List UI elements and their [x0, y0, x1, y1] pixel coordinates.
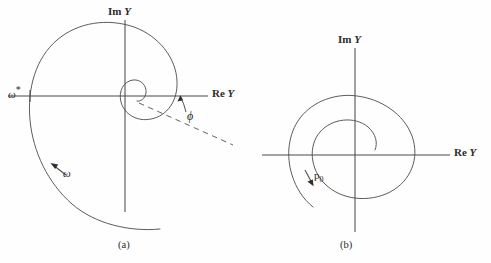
panel-a-spiral-curve [29, 22, 177, 229]
omega-direction-label: ω [63, 168, 71, 179]
panel-b-caption: (b) [340, 240, 352, 251]
panel-a-caption: (a) [118, 240, 130, 251]
panel-a-imag-axis-label-prefix: Im [108, 5, 124, 17]
panel-a-imag-axis-label: Im Y [108, 6, 131, 17]
panel-b-real-axis-label-var: Y [470, 146, 477, 158]
omega-star-symbol: ω [8, 88, 16, 100]
panel-a-real-axis-label-prefix: Re [212, 87, 228, 99]
panel-b-real-axis-label-prefix: Re [454, 146, 470, 158]
panel-b-p0-arrow-head [307, 180, 313, 187]
figure-container: Re Y Im Y ω* ω ϕ (a) Re Y Im Y p0 (b) [0, 0, 491, 263]
omega-star-superscript: * [16, 84, 21, 95]
panel-a-real-axis-label-var: Y [228, 87, 235, 99]
panel-a-dashed-radius [139, 103, 233, 145]
panel-a-group [8, 20, 233, 230]
panel-a-imag-axis-label-var: Y [124, 5, 131, 17]
p0-direction-label: p0 [314, 170, 324, 184]
omega-star-label: ω* [8, 85, 21, 100]
phi-angle-label: ϕ [187, 110, 193, 122]
panel-b-imag-axis-label: Im Y [338, 34, 361, 45]
panel-b-imag-axis-label-var: Y [354, 33, 361, 45]
panel-b-real-axis-label: Re Y [454, 147, 476, 158]
panel-b-imag-axis-label-prefix: Im [338, 33, 354, 45]
panel-a-real-axis-label: Re Y [212, 88, 234, 99]
figure-svg [0, 0, 491, 263]
panel-b-spiral-curve [289, 95, 415, 207]
panel-b-group [262, 48, 450, 232]
p0-subscript: 0 [320, 175, 324, 184]
